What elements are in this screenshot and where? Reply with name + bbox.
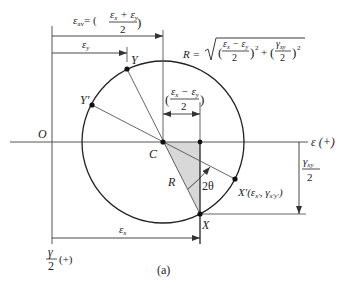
eps-av-fraction-den: 2: [120, 23, 126, 35]
eps-av-label: εav= (: [73, 14, 97, 28]
origin-label: O: [38, 127, 47, 141]
term1-den: 2: [232, 52, 237, 63]
term1-open: (: [218, 45, 222, 60]
x-prime-label: X′(εx′, γx′y′): [237, 186, 283, 200]
term1-power: 2: [255, 44, 259, 52]
point-y-prime: [89, 102, 94, 107]
term2-open: (: [270, 45, 274, 60]
eps-y-label: εy: [82, 38, 90, 52]
term2-close: ): [292, 45, 296, 60]
half-diff-num: εx − εy: [171, 85, 200, 99]
vertical-axis-label-num: γ: [48, 245, 53, 259]
half-diff-den: 2: [181, 100, 187, 112]
point-x: [197, 211, 202, 216]
vertical-axis-label-den: 2: [48, 259, 54, 273]
gamma-half-num: γxy: [303, 155, 314, 169]
half-diff-open: (: [165, 92, 169, 107]
angle-label: 2θ: [202, 179, 214, 193]
vertical-axis-label-sign: (+): [59, 253, 73, 266]
plus-sign: +: [261, 46, 267, 58]
half-diff-close: ): [200, 92, 204, 107]
radius-label: R: [167, 175, 176, 189]
y-prime-label: Y′: [80, 93, 90, 107]
radius-formula-lhs: R =: [182, 48, 200, 60]
point-center: [160, 139, 165, 144]
eps-av-fraction-num: εx + εy: [110, 8, 139, 22]
point-x-prime: [232, 176, 237, 181]
gamma-half-den: 2: [307, 171, 313, 183]
point-y: [124, 66, 129, 71]
point-half-diff: [198, 140, 203, 145]
horizontal-axis-label: ε (+): [311, 135, 335, 149]
term2-num: γxy: [276, 38, 286, 50]
eps-x-label: εx: [119, 223, 127, 237]
term2-power: 2: [297, 44, 301, 52]
term1-num: εx − εy: [223, 38, 249, 50]
eps-av-close: ): [137, 15, 141, 30]
term1-close: ): [250, 45, 254, 60]
mohr-circle-diagram: O C X Y Y′ R 2θ ε (+) γ 2 (+) X′(εx′, γx…: [0, 0, 344, 287]
center-label: C: [149, 147, 158, 161]
figure-caption: (a): [157, 263, 170, 277]
x-label: X: [201, 218, 210, 232]
term2-den: 2: [280, 52, 285, 63]
